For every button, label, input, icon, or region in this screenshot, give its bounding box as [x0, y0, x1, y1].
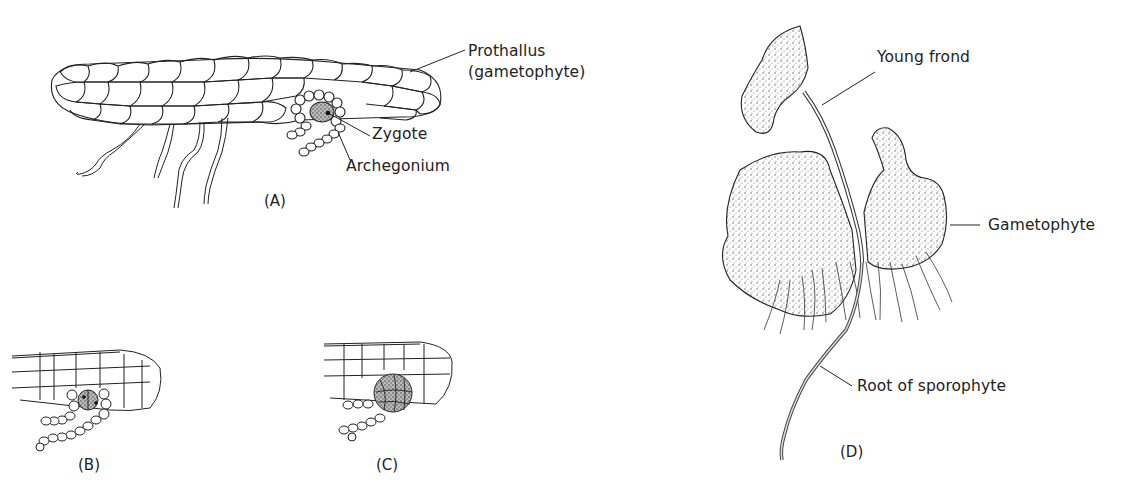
- label-prothallus: Prothallus: [468, 42, 546, 61]
- label-zygote: Zygote: [372, 125, 427, 144]
- label-root-of-sporophyte: Root of sporophyte: [857, 377, 1006, 396]
- panel-label-c: (C): [376, 456, 398, 474]
- panel-label-a: (A): [264, 192, 286, 210]
- label-gametophyte-parenthetical: (gametophyte): [468, 63, 585, 82]
- panel-label-d: (D): [840, 443, 863, 461]
- label-archegonium: Archegonium: [346, 157, 450, 176]
- panel-label-b: (B): [78, 456, 100, 474]
- panel-c-developing-embryo-drawing: [324, 342, 452, 441]
- label-young-frond: Young frond: [877, 48, 970, 67]
- panel-b-early-embryo-drawing: [12, 350, 161, 451]
- label-gametophyte: Gametophyte: [988, 216, 1095, 235]
